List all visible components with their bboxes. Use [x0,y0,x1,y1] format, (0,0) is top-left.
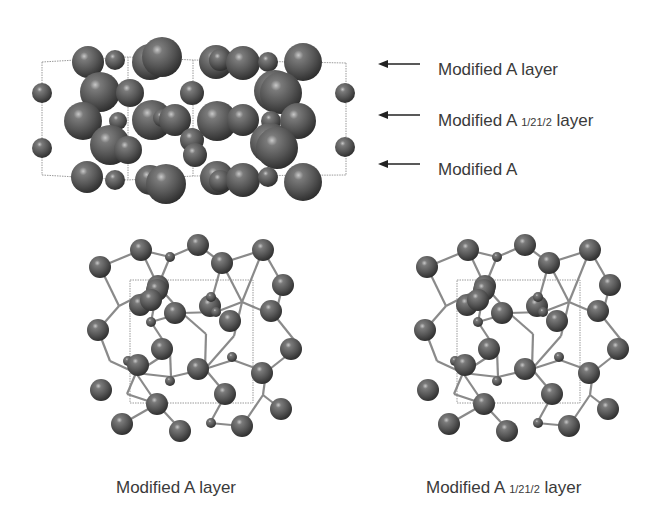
large-atom [514,358,536,380]
large-atom [87,319,109,341]
large-atom [546,310,568,332]
atom-sphere [105,50,125,70]
small-atom [206,292,216,302]
atom-sphere [335,137,355,157]
large-atom [578,362,600,384]
layer-label: Modified A layer [438,60,558,80]
large-atom [599,274,621,296]
atom-sphere [226,163,260,197]
large-atom [579,239,601,261]
large-atom [496,420,518,442]
layer-label: Modified A [438,160,517,180]
large-atom [538,252,560,274]
atom-sphere [116,79,144,107]
large-atom [169,420,191,442]
large-atom [187,358,209,380]
large-atom [478,338,500,360]
label-text: Modified A layer [116,478,236,497]
large-atom [272,274,294,296]
bond [454,373,463,394]
label-text: Modified A layer [438,60,558,79]
large-atom [457,239,479,261]
atom-sphere [258,52,278,72]
large-atom [146,393,168,415]
large-atom [491,302,513,324]
large-atom [187,234,209,256]
large-atom [270,398,292,420]
small-atom [492,252,502,262]
atom-sphere [105,170,125,190]
large-atom [280,338,302,360]
panel-caption: Modified A 1/21/2 layer [426,478,581,498]
small-atom [146,317,156,327]
atom-sphere [258,167,278,187]
left-arrow-icon [378,109,422,121]
label-text: Modified A [438,111,521,130]
layer-label: Modified A 1/21/2 layer [438,111,593,131]
small-atom [538,307,548,317]
large-atom [260,300,282,322]
large-atom [541,383,563,405]
large-atom [164,302,186,324]
large-atom [607,338,629,360]
small-atom [533,418,543,428]
large-atom [231,415,253,437]
left-arrow-icon [378,58,422,70]
bond [509,313,533,334]
small-atom [227,352,237,362]
large-atom [558,415,580,437]
small-atom [473,317,483,327]
large-atom [416,256,438,278]
large-atom [438,413,460,435]
atom-sphere [32,138,52,158]
label-subscript: 1/21/2 [521,116,552,128]
large-atom [89,256,111,278]
top-view-modified-a-half-layer [414,234,629,442]
crystal-structure-figure [0,0,668,519]
left-arrow-icon [378,158,422,170]
large-atom [252,239,274,261]
atom-sphere [114,136,142,164]
large-atom [127,354,149,376]
large-atom [111,413,133,435]
large-atom [140,289,162,311]
atom-sphere [142,37,182,77]
large-atom [514,234,536,256]
small-atom [206,418,216,428]
label-text: Modified A [426,478,509,497]
small-atom [492,376,502,386]
large-atom [417,379,439,401]
large-atom [473,393,495,415]
large-atom [219,310,241,332]
atom-sphere [226,46,260,80]
small-atom [165,376,175,386]
large-atom [467,289,489,311]
top-view-modified-a-layer [87,234,302,442]
atom-sphere [71,161,103,193]
atom-sphere [183,143,207,167]
atom-sphere [146,164,186,204]
large-atom [214,383,236,405]
small-atom [211,307,221,317]
small-atom [533,292,543,302]
atom-sphere [335,83,355,103]
large-atom [90,379,112,401]
large-atom [251,362,273,384]
atom-sphere [32,83,52,103]
label-subscript: 1/21/2 [509,483,540,495]
label-suffix: layer [552,111,594,130]
large-atom [414,319,436,341]
small-atom [165,252,175,262]
label-text: Modified A [438,160,517,179]
atom-sphere [180,81,204,105]
large-atom [211,252,233,274]
bond [127,373,136,394]
atom-sphere [284,163,322,201]
small-atom [554,352,564,362]
atom-sphere [256,127,298,169]
panel-caption: Modified A layer [116,478,236,498]
label-suffix: layer [540,478,582,497]
large-atom [587,300,609,322]
large-atom [454,354,476,376]
large-atom [130,239,152,261]
